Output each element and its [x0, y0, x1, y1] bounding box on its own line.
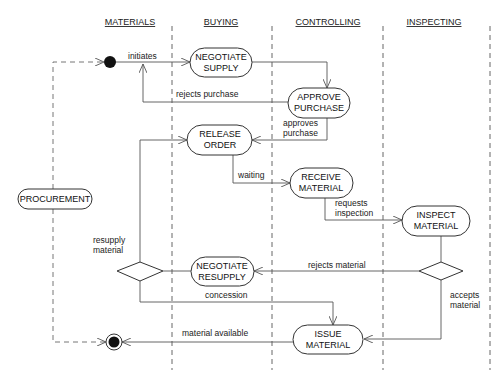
release-order-node[interactable]: RELEASE ORDER [187, 125, 252, 155]
lane-title-buying: BUYING [204, 17, 239, 27]
label-initiates: initiates [128, 51, 157, 61]
resupply-decision-diamond [117, 262, 163, 281]
svg-text:RELEASE: RELEASE [199, 129, 241, 139]
svg-text:RESUPPLY: RESUPPLY [198, 272, 245, 282]
lane-title-materials: MATERIALS [105, 17, 155, 27]
label-approves-1: approves [283, 118, 318, 128]
procurement-to-end-flow [53, 209, 106, 342]
flow-accepts-material [364, 280, 441, 339]
svg-text:NEGOTIATE: NEGOTIATE [196, 261, 247, 271]
svg-text:MATERIAL: MATERIAL [299, 183, 343, 193]
inspection-decision-diamond [419, 262, 463, 280]
label-rejects-material: rejects material [308, 260, 366, 270]
lane-title-inspecting: INSPECTING [406, 17, 461, 27]
svg-text:NEGOTIATE: NEGOTIATE [195, 52, 246, 62]
svg-text:APPROVE: APPROVE [297, 92, 341, 102]
label-resupply-1: resupply [93, 235, 126, 245]
svg-text:PURCHASE: PURCHASE [294, 103, 344, 113]
issue-material-node[interactable]: ISSUE MATERIAL [293, 325, 363, 354]
flow-negotiate-to-approve [252, 62, 327, 88]
svg-text:INSPECT: INSPECT [416, 210, 456, 220]
svg-text:ISSUE: ISSUE [314, 329, 341, 339]
label-accepts-1: accepts [450, 290, 479, 300]
label-material-available: material available [182, 328, 248, 338]
label-requests-2: inspection [335, 208, 374, 218]
procurement-node[interactable]: PROCUREMENT [18, 189, 92, 209]
svg-text:RECEIVE: RECEIVE [301, 172, 341, 182]
svg-text:MATERIAL: MATERIAL [306, 340, 350, 350]
approve-purchase-node[interactable]: APPROVE PURCHASE [288, 88, 350, 118]
inspect-material-node[interactable]: INSPECT MATERIAL [402, 206, 470, 236]
activity-diagram: MATERIALS BUYING CONTROLLING INSPECTING … [0, 0, 502, 375]
svg-text:ORDER: ORDER [204, 140, 237, 150]
label-concession: concession [205, 290, 248, 300]
svg-text:PROCUREMENT: PROCUREMENT [20, 194, 91, 204]
label-approves-2: purchase [283, 128, 318, 138]
negotiate-resupply-node[interactable]: NEGOTIATE RESUPPLY [191, 257, 254, 286]
svg-text:MATERIAL: MATERIAL [414, 221, 458, 231]
end-node [106, 334, 122, 350]
start-node [104, 56, 116, 68]
flow-concession [140, 281, 333, 325]
svg-text:SUPPLY: SUPPLY [204, 63, 239, 73]
procurement-to-start-flow [53, 62, 104, 189]
negotiate-supply-node[interactable]: NEGOTIATE SUPPLY [190, 48, 252, 77]
label-waiting: waiting [237, 170, 265, 180]
lane-title-controlling: CONTROLLING [295, 17, 360, 27]
receive-material-node[interactable]: RECEIVE MATERIAL [290, 168, 353, 198]
label-requests-1: requests [335, 198, 368, 208]
flow-resupply-material [140, 140, 187, 263]
label-accepts-2: material [450, 300, 480, 310]
label-rejects-purchase: rejects purchase [176, 89, 239, 99]
label-resupply-2: material [93, 245, 123, 255]
